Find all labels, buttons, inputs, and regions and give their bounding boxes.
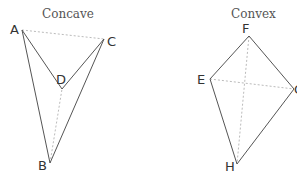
vertex-label-a: A bbox=[10, 22, 19, 37]
concave-outline bbox=[22, 30, 104, 163]
vertex-label-g: G bbox=[294, 82, 297, 97]
concave-quadrilateral: Concave A B C D bbox=[10, 7, 116, 173]
vertex-label-e: E bbox=[197, 72, 205, 87]
vertex-label-f: F bbox=[242, 21, 249, 36]
vertex-label-b: B bbox=[38, 158, 47, 173]
diagonal-ac bbox=[22, 30, 104, 39]
vertex-label-c: C bbox=[107, 34, 116, 49]
convex-quadrilateral: Convex E F G H bbox=[197, 7, 297, 174]
quadrilateral-diagram: Concave A B C D Convex E F G H bbox=[0, 0, 297, 186]
diagram-canvas: Concave A B C D Convex E F G H bbox=[0, 0, 297, 186]
convex-title: Convex bbox=[231, 7, 276, 21]
concave-title: Concave bbox=[42, 7, 94, 21]
vertex-label-d: D bbox=[56, 72, 66, 87]
diagonal-fh bbox=[237, 36, 249, 164]
diagonal-eg bbox=[210, 79, 294, 89]
convex-outline bbox=[210, 36, 294, 164]
diagonal-bd bbox=[50, 89, 62, 163]
vertex-label-h: H bbox=[225, 159, 235, 174]
